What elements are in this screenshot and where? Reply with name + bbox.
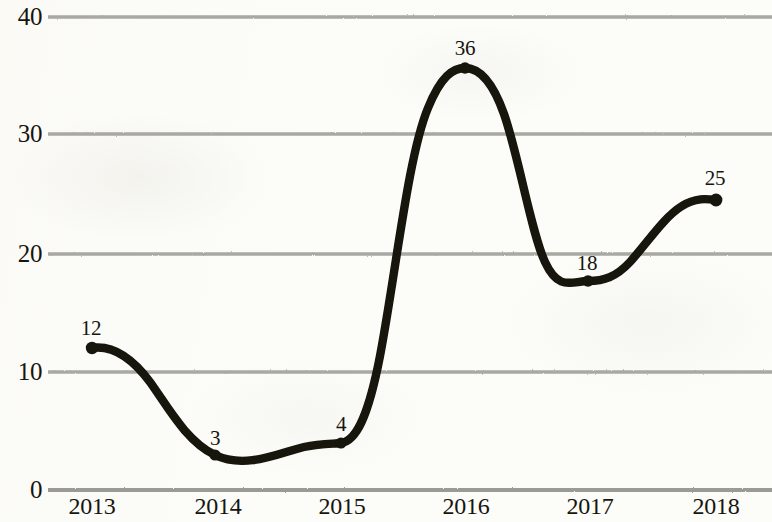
x-tick-label-2015: 2015 [292,494,392,518]
y-tick-label-10: 10 [0,359,42,384]
y-tick-label-0: 0 [0,477,42,502]
x-tick-label-2018: 2018 [666,494,766,518]
data-label-2013: 12 [66,318,116,339]
data-label-2018: 25 [690,168,740,189]
series-path [92,68,716,461]
gridlines [48,17,772,490]
y-tick-label-30: 30 [0,121,42,146]
data-point-2015 [335,437,346,448]
data-point-2013 [86,342,98,354]
data-label-2015: 4 [316,414,366,435]
chart-page: 40 30 20 10 0 2013 2014 2015 2016 2017 2… [0,0,772,522]
line-chart-plot [0,0,772,522]
x-tick-label-2013: 2013 [42,494,142,518]
data-series-line [92,68,716,461]
data-label-2017: 18 [562,253,612,274]
y-tick-label-40: 40 [0,4,42,29]
data-point-2017 [582,275,594,287]
data-point-2016 [459,62,471,74]
y-tick-label-20: 20 [0,241,42,266]
data-label-2016: 36 [440,38,490,59]
data-point-2014 [209,449,220,460]
data-point-2018 [710,194,723,207]
x-tick-label-2016: 2016 [416,494,516,518]
data-label-2014: 3 [190,428,240,449]
x-tick-label-2014: 2014 [168,494,268,518]
x-tick-label-2017: 2017 [540,494,640,518]
